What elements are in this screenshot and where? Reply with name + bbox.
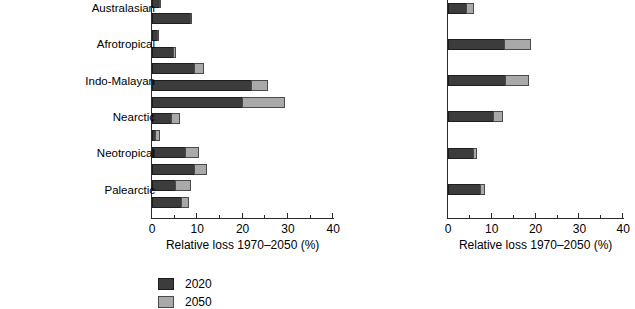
- bar-stack: [448, 39, 531, 50]
- bar-segment-2050: [171, 113, 180, 124]
- bar-segment-2050: [175, 180, 191, 191]
- bar-stack: [152, 197, 189, 208]
- x-axis-tick-minor: [469, 215, 470, 218]
- bar-segment-2050: [466, 3, 474, 14]
- x-axis-tick-label: 30: [273, 223, 303, 235]
- bar-segment-2020: [152, 97, 243, 108]
- x-axis-tick-minor: [557, 215, 558, 218]
- x-axis-line: [151, 218, 334, 219]
- bar-stack: [152, 97, 285, 108]
- legend-label-2020: 2020: [185, 278, 212, 290]
- bar-segment-2020: [152, 147, 186, 158]
- bar-segment-2050: [473, 148, 477, 159]
- x-axis-tick-major: [151, 213, 152, 218]
- x-axis-tick-label: 20: [228, 223, 258, 235]
- bar-stack: [448, 148, 477, 159]
- x-axis-tick-minor: [513, 215, 514, 218]
- bar-segment-2020: [448, 75, 506, 86]
- x-axis-tick-minor: [264, 215, 265, 218]
- category-label: Nearctic: [113, 111, 155, 123]
- bar-segment-2050: [242, 97, 285, 108]
- x-axis-title: Relative loss 1970–2050 (%): [426, 239, 635, 252]
- bar-stack: [448, 3, 474, 14]
- bar-segment-2020: [152, 13, 191, 24]
- category-label: Afrotropical: [97, 38, 155, 50]
- bar-segment-2050: [173, 47, 176, 58]
- bar-segment-2020: [152, 164, 195, 175]
- x-axis-tick-label: 0: [433, 223, 463, 235]
- x-axis-tick-major: [242, 213, 243, 218]
- x-axis-tick-major: [491, 213, 492, 218]
- bar-segment-2050: [181, 197, 189, 208]
- bar-segment-2050: [155, 130, 160, 141]
- x-axis-tick-major: [578, 213, 579, 218]
- bar-segment-2020: [152, 47, 174, 58]
- chart-legend: 2020 2050: [158, 276, 212, 309]
- x-axis-tick-major: [196, 213, 197, 218]
- bar-segment-2050: [480, 184, 485, 195]
- bar-segment-2050: [159, 0, 161, 8]
- bar-segment-2020: [448, 3, 467, 14]
- legend-item-2020: 2020: [158, 276, 212, 291]
- bar-stack: [448, 75, 529, 86]
- y-axis-line: [447, 0, 448, 218]
- x-axis-tick-minor: [174, 215, 175, 218]
- bar-segment-2050: [190, 13, 192, 24]
- x-axis-tick-label: 30: [564, 223, 594, 235]
- bar-stack: [152, 180, 191, 191]
- category-label: Neotropical: [97, 147, 155, 159]
- bar-segment-2050: [185, 147, 199, 158]
- x-axis-line: [447, 218, 624, 219]
- legend-label-2050: 2050: [185, 296, 212, 308]
- bar-segment-2050: [194, 164, 207, 175]
- bar-stack: [152, 113, 180, 124]
- bar-stack: [152, 164, 207, 175]
- bar-stack: [152, 13, 192, 24]
- bar-stack: [448, 184, 485, 195]
- bar-stack: [152, 63, 204, 74]
- bar-stack: [152, 130, 160, 141]
- x-axis-tick-label: 40: [608, 223, 635, 235]
- category-label: Palearctic: [105, 184, 156, 196]
- bar-segment-2020: [152, 80, 252, 91]
- figure-container: TundraWooded tundraBoreal forestCool con…: [0, 0, 635, 309]
- bar-segment-2020: [448, 184, 481, 195]
- x-axis-tick-minor: [600, 215, 601, 218]
- bar-stack: [448, 111, 503, 122]
- legend-swatch-2050-icon: [158, 296, 174, 308]
- x-axis-tick-minor: [219, 215, 220, 218]
- bar-stack: [152, 80, 268, 91]
- bar-segment-2050: [251, 80, 268, 91]
- x-axis-tick-label: 0: [137, 223, 167, 235]
- x-axis-tick-label: 10: [182, 223, 212, 235]
- x-axis-tick-label: 20: [521, 223, 551, 235]
- bar-segment-2020: [152, 180, 176, 191]
- x-axis-title: Relative loss 1970–2050 (%): [133, 239, 353, 252]
- x-axis-tick-major: [447, 213, 448, 218]
- x-axis-tick-major: [535, 213, 536, 218]
- x-axis-tick-label: 10: [477, 223, 507, 235]
- legend-swatch-2020-icon: [158, 278, 174, 290]
- bar-segment-2020: [448, 111, 494, 122]
- bar-segment-2050: [493, 111, 504, 122]
- bar-segment-2020: [152, 63, 195, 74]
- bar-stack: [152, 147, 199, 158]
- x-axis-tick-major: [332, 213, 333, 218]
- category-label: Australasian: [92, 2, 155, 14]
- legend-item-2050: 2050: [158, 294, 212, 309]
- bar-stack: [152, 47, 176, 58]
- bar-segment-2050: [157, 30, 159, 41]
- x-axis-tick-major: [287, 213, 288, 218]
- bar-segment-2050: [194, 63, 204, 74]
- bar-segment-2050: [504, 39, 531, 50]
- bar-segment-2020: [448, 148, 474, 159]
- x-axis-tick-label: 40: [318, 223, 348, 235]
- bar-segment-2050: [505, 75, 529, 86]
- x-axis-tick-major: [622, 213, 623, 218]
- bar-segment-2020: [152, 197, 182, 208]
- category-label: Indo-Malayan: [85, 75, 155, 87]
- bar-segment-2020: [448, 39, 505, 50]
- x-axis-tick-minor: [310, 215, 311, 218]
